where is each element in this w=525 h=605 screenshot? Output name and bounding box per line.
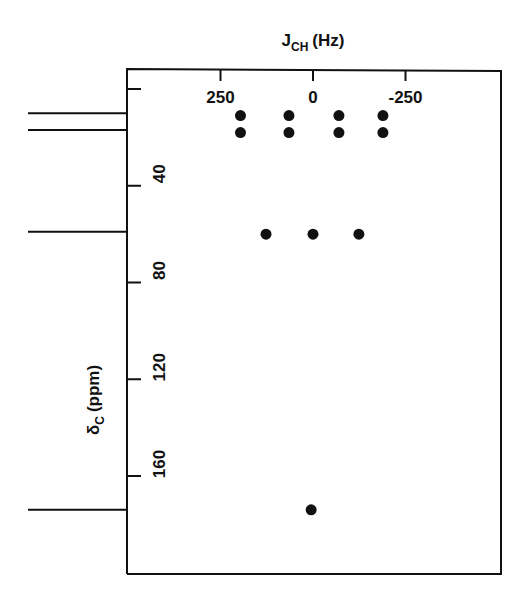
data-point bbox=[353, 229, 364, 240]
data-point bbox=[308, 229, 319, 240]
data-point bbox=[235, 127, 246, 138]
y-tick-label: 40 bbox=[150, 164, 169, 183]
x-tick-label: 250 bbox=[206, 88, 234, 107]
data-point bbox=[377, 110, 388, 121]
data-point bbox=[333, 110, 344, 121]
data-point bbox=[306, 504, 317, 515]
x-axis-ticks: 2500-250 bbox=[206, 70, 422, 107]
x-tick-label: -250 bbox=[388, 88, 422, 107]
data-point bbox=[377, 127, 388, 138]
data-point bbox=[235, 110, 246, 121]
data-point bbox=[283, 127, 294, 138]
axes-box bbox=[127, 69, 501, 574]
data-point bbox=[283, 110, 294, 121]
x-tick-label: 0 bbox=[308, 88, 317, 107]
y-tick-label: 120 bbox=[150, 353, 169, 381]
data-point bbox=[333, 127, 344, 138]
nmr-correlation-chart: 2500-250 4080120160 JCH(Hz) δC(ppm) bbox=[0, 0, 525, 605]
y-axis-label: δC(ppm) bbox=[84, 365, 107, 435]
y-axis-ticks: 4080120160 bbox=[127, 89, 169, 478]
y-tick-label: 80 bbox=[150, 261, 169, 280]
x-axis-label: JCH(Hz) bbox=[282, 31, 345, 54]
spectrum-lines bbox=[28, 113, 127, 510]
data-points bbox=[235, 110, 388, 515]
plot-frame bbox=[127, 69, 501, 574]
y-tick-label: 160 bbox=[150, 450, 169, 478]
data-point bbox=[261, 229, 272, 240]
